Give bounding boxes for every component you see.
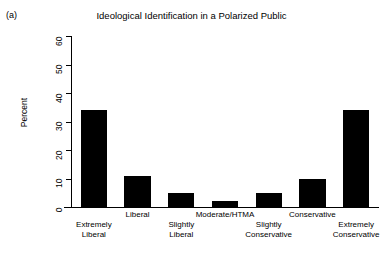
x-tick-label: Moderate/HTMA	[193, 210, 257, 220]
bar	[168, 193, 194, 207]
x-tick-label: Liberal	[106, 210, 170, 220]
bar	[299, 179, 325, 208]
x-tick-label: Slightly Liberal	[149, 220, 213, 239]
x-tick-label: Extremely Liberal	[62, 220, 126, 239]
bar	[343, 110, 369, 207]
bar	[81, 110, 107, 207]
x-tick-label: Slightly Conservative	[237, 220, 301, 239]
x-tick-label: Conservative	[281, 210, 345, 220]
bar	[256, 193, 282, 207]
x-tick-label: Extremely Conservative	[324, 220, 383, 239]
bar	[124, 176, 150, 207]
x-tick-label-group: Extremely LiberalLiberalSlightly Liberal…	[0, 207, 383, 253]
bars-layer	[0, 0, 383, 207]
figure-panel: (a) Ideological Identification in a Pola…	[0, 0, 383, 253]
